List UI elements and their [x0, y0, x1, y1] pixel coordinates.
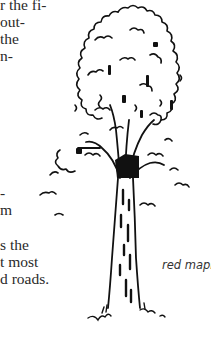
- body-text-line-3: the: [0, 30, 19, 47]
- body-text-line-7: s the: [0, 236, 29, 253]
- red-maple-tree-illustration: [30, 0, 211, 341]
- figure-caption: red maple: [162, 258, 211, 272]
- body-text-line-6: m: [0, 201, 12, 218]
- body-text-line-2: out-: [0, 13, 25, 30]
- body-text-line-5: -: [0, 184, 5, 201]
- body-text-line-4: n-: [0, 47, 13, 64]
